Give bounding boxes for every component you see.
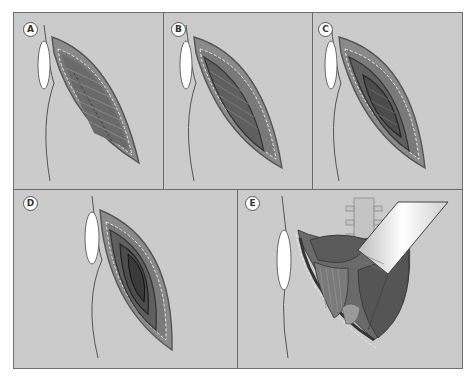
panel-label-c: C — [318, 22, 333, 37]
panel-label-d: D — [23, 196, 38, 211]
panel-a: A — [14, 13, 163, 189]
illustration-c — [313, 13, 462, 189]
panel-label-a: A — [23, 22, 38, 37]
illustration-b — [164, 13, 312, 189]
figure-frame: A B — [13, 12, 463, 369]
illustration-e — [238, 190, 462, 368]
panel-d: D — [14, 190, 237, 368]
illustration-d — [14, 190, 237, 368]
panel-b: B — [164, 13, 312, 189]
panel-e: E — [238, 190, 462, 368]
illustration-a — [14, 13, 163, 189]
panel-c: C — [313, 13, 462, 189]
panel-label-b: B — [171, 22, 186, 37]
panel-label-e: E — [245, 196, 260, 211]
